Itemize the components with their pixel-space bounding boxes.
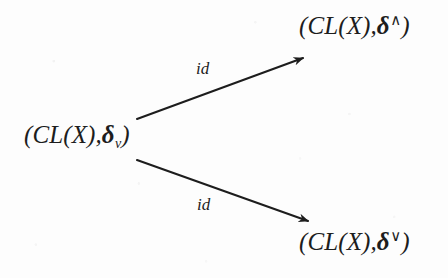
- upper-arrow: [137, 58, 303, 119]
- lower-arrow: [137, 160, 308, 221]
- delta-symbol: δ: [377, 228, 390, 255]
- closure-operator: CL(X): [307, 12, 370, 39]
- closure-operator: CL(X): [32, 121, 95, 148]
- close-paren: ): [401, 12, 409, 39]
- lower-arrow-label: id: [197, 196, 210, 213]
- vee-superscript-icon: ∨: [390, 228, 401, 244]
- close-paren: ): [401, 228, 409, 255]
- delta-symbol: δ: [377, 12, 390, 39]
- upper-arrow-label: id: [196, 60, 209, 77]
- commutative-diagram: (CL(X),δ∧) (CL(X),δv) (CL(X),δ∨) id id: [0, 0, 448, 278]
- upper-target-object: (CL(X),δ∧): [299, 13, 410, 38]
- closure-operator: CL(X): [307, 228, 370, 255]
- source-object: (CL(X),δv): [24, 122, 130, 151]
- close-paren: ): [121, 121, 129, 148]
- delta-symbol: δ: [102, 121, 115, 148]
- lower-target-object: (CL(X),δ∨): [299, 229, 410, 254]
- wedge-superscript-icon: ∧: [390, 12, 401, 28]
